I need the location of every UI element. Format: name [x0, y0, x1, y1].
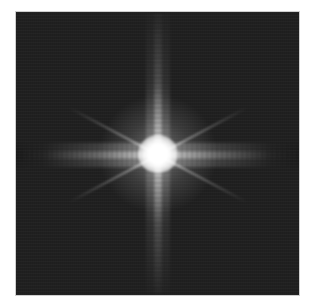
spectrum-image [15, 11, 300, 296]
center-bright-spot [138, 135, 178, 173]
